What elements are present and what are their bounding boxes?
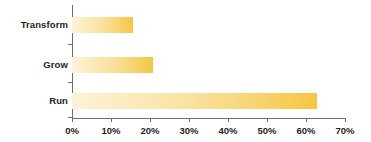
category-label-transform: Transform	[0, 20, 68, 30]
value-axis-line	[72, 118, 345, 119]
value-axis-tick	[228, 118, 229, 122]
value-axis-tick-label: 40%	[206, 125, 250, 136]
bar-grow	[72, 57, 153, 73]
bar-run	[72, 93, 317, 109]
value-axis-tick-label: 50%	[245, 125, 289, 136]
value-axis-tick	[267, 118, 268, 122]
category-axis-tick	[68, 44, 72, 45]
value-axis-tick	[111, 118, 112, 122]
bar-chart: Transform Grow Run 0% 10% 20% 30% 40% 50…	[0, 0, 371, 142]
value-axis-tick-label: 60%	[284, 125, 328, 136]
value-axis-tick-label: 70%	[323, 125, 367, 136]
value-axis-tick	[72, 118, 73, 122]
category-label-run: Run	[0, 96, 68, 106]
value-axis-tick-label: 30%	[167, 125, 211, 136]
plot-area: 0% 10% 20% 30% 40% 50% 60% 70%	[72, 5, 345, 118]
value-axis-tick	[189, 118, 190, 122]
value-axis-tick-label: 10%	[89, 125, 133, 136]
value-axis-tick	[150, 118, 151, 122]
category-axis-tick	[68, 82, 72, 83]
bar-transform	[72, 17, 133, 33]
value-axis-tick-label: 20%	[128, 125, 172, 136]
value-axis-tick	[306, 118, 307, 122]
value-axis-tick-label: 0%	[50, 125, 94, 136]
value-axis-tick	[345, 118, 346, 122]
category-label-grow: Grow	[0, 60, 68, 70]
